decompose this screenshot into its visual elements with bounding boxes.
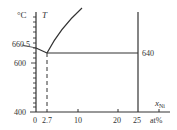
y-minor-ticks [31, 17, 36, 107]
x-tick-2.7: 2.7 [42, 116, 52, 125]
y-symbol-label: T [42, 10, 48, 20]
x-tick-10: 10 [74, 116, 82, 125]
eutectic-temp-label: 640 [142, 49, 154, 58]
y-tick-400: 400 [14, 108, 26, 117]
melting-point-label: 660.5 [12, 40, 30, 49]
phase-diagram: °C T 660.5 600 400 640 0 2.7 10 20 25 at… [0, 0, 177, 130]
x-symbol-label: xNi [154, 98, 165, 109]
x-unit-label: at% [150, 116, 163, 125]
x-tick-25: 25 [133, 116, 141, 125]
y-tick-600: 600 [14, 59, 26, 68]
liquidus-left [36, 48, 47, 53]
x-tick-20: 20 [113, 116, 121, 125]
y-unit-label: °C [17, 10, 27, 20]
x-tick-0: 0 [33, 116, 37, 125]
liquidus-right [47, 8, 82, 53]
